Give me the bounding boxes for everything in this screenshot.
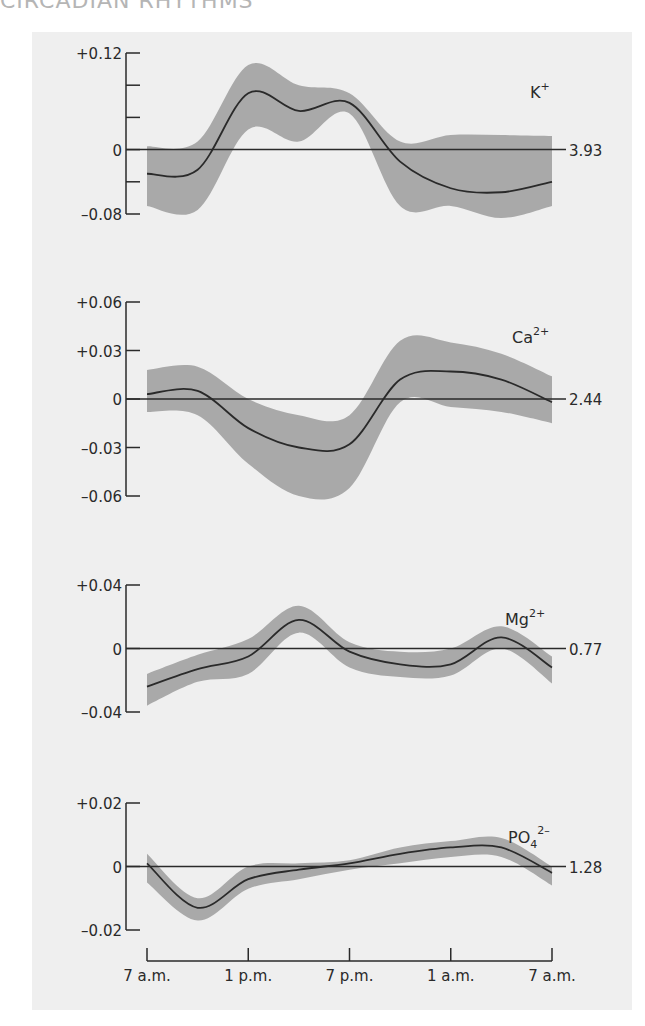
x-tick-label: 1 a.m.	[427, 967, 475, 985]
y-tick-label: –0.02	[81, 922, 122, 940]
subplot-mg: 0.77+0.040–0.04Mg2+	[76, 577, 602, 722]
y-tick-label: +0.06	[76, 294, 122, 312]
y-tick-label: –0.08	[81, 206, 122, 224]
y-tick-label: +0.04	[76, 577, 122, 595]
confidence-band	[147, 606, 552, 706]
ion-label: PO42–	[508, 824, 550, 851]
ion-label: K+	[530, 80, 550, 102]
y-tick-label: 0	[112, 142, 122, 160]
x-axis: 7 a.m.1 p.m.7 p.m.1 a.m.7 a.m.	[123, 948, 576, 985]
y-tick-label: 0	[112, 641, 122, 659]
ion-label: Ca2+	[512, 325, 549, 347]
x-tick-label: 1 p.m.	[224, 967, 272, 985]
circadian-chart: 3.93+0.120–0.08K+2.44+0.06+0.030–0.03–0.…	[0, 0, 645, 1026]
x-tick-label: 7 a.m.	[528, 967, 576, 985]
x-tick-label: 7 a.m.	[123, 967, 171, 985]
y-tick-label: –0.03	[81, 440, 122, 458]
baseline-value-label: 3.93	[569, 142, 602, 160]
subplot-ca: 2.44+0.06+0.030–0.03–0.06Ca2+	[76, 294, 602, 506]
subplot-po: 1.28+0.020–0.02PO42–	[76, 795, 602, 940]
confidence-band	[147, 335, 552, 499]
y-tick-label: 0	[112, 859, 122, 877]
y-tick-label: +0.03	[76, 343, 122, 361]
subplot-k: 3.93+0.120–0.08K+	[76, 45, 602, 224]
y-tick-label: –0.06	[81, 488, 122, 506]
ion-label: Mg2+	[505, 607, 545, 629]
confidence-band	[147, 63, 552, 218]
baseline-value-label: 0.77	[569, 641, 602, 659]
baseline-value-label: 1.28	[569, 859, 602, 877]
y-tick-label: –0.04	[81, 704, 122, 722]
y-tick-label: 0	[112, 391, 122, 409]
y-tick-label: +0.02	[76, 795, 122, 813]
baseline-value-label: 2.44	[569, 391, 602, 409]
confidence-band	[147, 836, 552, 920]
y-tick-label: +0.12	[76, 45, 122, 63]
x-tick-label: 7 p.m.	[326, 967, 374, 985]
